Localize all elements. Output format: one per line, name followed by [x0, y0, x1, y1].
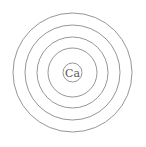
- bohr-model-diagram: Ca: [0, 0, 146, 147]
- element-symbol: Ca: [65, 67, 80, 80]
